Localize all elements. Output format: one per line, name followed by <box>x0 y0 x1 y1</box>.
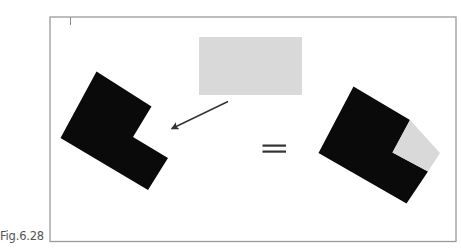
figure-diagram <box>0 0 461 252</box>
arrow-icon <box>172 102 228 129</box>
figure-caption: Fig.6.28 <box>0 229 44 243</box>
equals-sign <box>263 145 287 153</box>
left-black-l-shape <box>61 72 169 191</box>
gray-rectangle <box>199 37 302 95</box>
